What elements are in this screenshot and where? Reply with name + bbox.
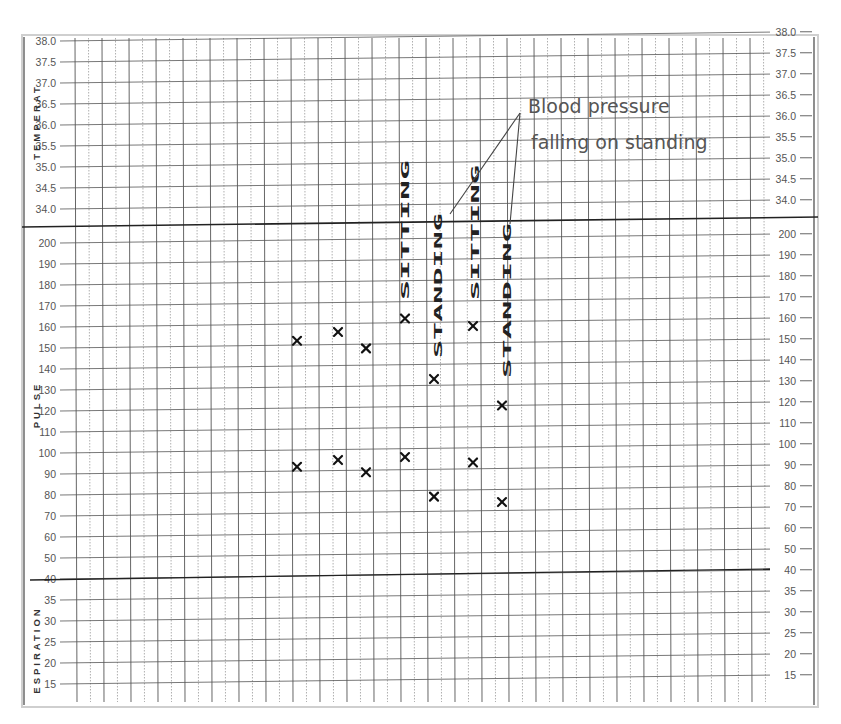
grid-line-major — [129, 38, 131, 702]
grid-line-major — [291, 38, 293, 702]
right-tick-label: 37.0 — [776, 68, 797, 80]
bp-marker-x — [498, 498, 506, 506]
respiration-section-label: ESPIRATION — [31, 606, 42, 693]
right-tick-label: 35 — [784, 585, 796, 597]
grid-line-horizontal — [60, 654, 770, 663]
grid-line-horizontal — [60, 675, 770, 684]
grid-line-horizontal — [60, 465, 770, 474]
left-tick-label: 70 — [44, 510, 56, 522]
grid-line-major — [426, 38, 428, 702]
grid-line-horizontal — [60, 179, 770, 188]
grid-line-horizontal — [60, 276, 770, 285]
right-tick-label: 160 — [778, 312, 796, 324]
grid-line-horizontal — [60, 423, 770, 432]
left-tick-label: 100 — [38, 447, 56, 459]
grid-line-minor — [764, 38, 766, 702]
bp-marker-x — [469, 322, 477, 330]
grid-line-horizontal — [60, 53, 770, 62]
grid-line-minor — [224, 38, 226, 702]
grid-line-minor — [359, 38, 361, 702]
right-tick-label: 90 — [784, 459, 796, 471]
right-tick-label: 34.0 — [776, 194, 797, 206]
temperature-pulse-divider — [22, 217, 818, 227]
grid-line-horizontal — [60, 612, 770, 621]
chart-canvas: 38.038.037.537.537.037.036.536.536.036.0… — [0, 0, 841, 724]
bp-marker-x — [469, 459, 477, 467]
annotation-pointer-2 — [510, 113, 520, 224]
grid-line-minor — [440, 38, 442, 702]
left-tick-label: 35.0 — [36, 161, 57, 173]
grid-line-major — [264, 38, 266, 702]
right-tick-label: 20 — [784, 648, 796, 660]
right-tick-label: 190 — [778, 249, 796, 261]
grid-line-major — [345, 38, 347, 702]
bp-marker-x — [293, 463, 301, 471]
right-tick-label: 37.5 — [776, 47, 797, 59]
pulse-section-label: PULSE — [31, 382, 42, 429]
left-tick-label: 140 — [38, 363, 56, 375]
grid-line-minor — [413, 38, 415, 702]
grid-line-minor — [521, 38, 523, 702]
grid-line-horizontal — [60, 158, 770, 167]
right-tick-label: 35.0 — [776, 152, 797, 164]
grid-line-horizontal — [60, 360, 770, 369]
left-tick-label: 15 — [44, 678, 56, 690]
left-tick-label: 38.0 — [36, 35, 57, 47]
grid-line-minor — [305, 38, 307, 702]
left-tick-label: 200 — [38, 237, 56, 249]
bp-marker-x — [293, 337, 301, 345]
right-tick-label: 130 — [778, 375, 796, 387]
grid-line-minor — [143, 38, 145, 702]
left-tick-label: 180 — [38, 279, 56, 291]
grid-line-horizontal — [60, 549, 770, 558]
right-tick-label: 200 — [778, 228, 796, 240]
grid-line-minor — [494, 38, 496, 702]
temperature-section-label: TEMPERAT — [31, 84, 42, 160]
left-tick-label: 170 — [38, 300, 56, 312]
left-tick-label: 20 — [44, 657, 56, 669]
left-tick-label: 90 — [44, 468, 56, 480]
observation-chart: 38.038.037.537.537.037.036.536.536.036.0… — [0, 0, 841, 724]
grid-line-major — [480, 38, 482, 702]
right-tick-label: 25 — [784, 627, 796, 639]
grid-line-horizontal — [60, 528, 770, 537]
grid-line-minor — [278, 38, 280, 702]
bp-marker-x — [334, 328, 342, 336]
annotation-line-1: Blood pressure — [528, 95, 670, 117]
bp-marker-x — [362, 344, 370, 352]
grid-line-major — [75, 38, 77, 702]
standing-annotation-1: STANDING — [432, 212, 445, 358]
left-tick-label: 190 — [38, 258, 56, 270]
grid-line-horizontal — [60, 200, 770, 209]
grid-line-major — [318, 38, 320, 702]
right-tick-label: 70 — [784, 501, 796, 513]
grid-line-horizontal — [60, 74, 770, 83]
right-tick-label: 120 — [778, 396, 796, 408]
left-tick-label: 150 — [38, 342, 56, 354]
right-tick-label: 170 — [778, 291, 796, 303]
grid-line-horizontal — [60, 297, 770, 306]
right-tick-label: 38.0 — [776, 26, 797, 38]
left-tick-label: 30 — [44, 615, 56, 627]
grid-line-minor — [386, 38, 388, 702]
bp-marker-x — [401, 453, 409, 461]
right-tick-label: 80 — [784, 480, 796, 492]
grid-line-minor — [89, 38, 91, 702]
grid-line-horizontal — [60, 486, 770, 495]
bp-marker-x — [430, 493, 438, 501]
grid-line-horizontal — [60, 633, 770, 642]
grid-line-minor — [116, 38, 118, 702]
right-tick-label: 30 — [784, 606, 796, 618]
left-tick-label: 34.5 — [36, 182, 57, 194]
grid-line-major — [237, 38, 239, 702]
right-tick-label: 100 — [778, 438, 796, 450]
standing-annotation-2: STANDING — [501, 222, 514, 378]
right-tick-label: 15 — [784, 669, 796, 681]
grid-line-major — [453, 38, 455, 702]
axis-ticks: 38.038.037.537.537.037.036.536.536.036.0… — [36, 26, 812, 690]
grid-line-major — [399, 38, 401, 702]
grid-line-horizontal — [60, 507, 770, 516]
grid-line-horizontal — [60, 591, 770, 600]
bp-marker-x — [430, 375, 438, 383]
grid-line-minor — [251, 38, 253, 702]
